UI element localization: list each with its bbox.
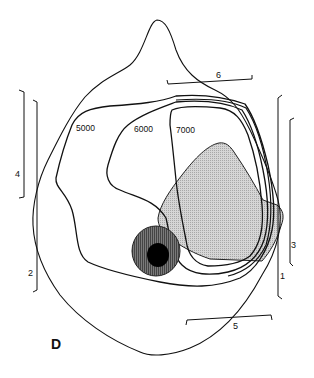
bracket-4 — [19, 90, 24, 198]
contour-label-7000: 7000 — [176, 125, 195, 135]
contour-label-5000: 5000 — [76, 123, 95, 133]
label-2: 2 — [28, 268, 33, 278]
label-1: 1 — [280, 271, 285, 281]
label-4: 4 — [15, 169, 20, 179]
label-3: 3 — [291, 240, 296, 250]
label-6: 6 — [216, 70, 221, 80]
lesion-core — [147, 243, 169, 267]
bracket-2 — [33, 100, 37, 292]
bracket-1 — [278, 95, 282, 299]
bracket-5 — [186, 315, 272, 325]
bracket-6 — [167, 75, 252, 84]
contour-label-6000: 6000 — [134, 124, 153, 134]
panel-label: D — [51, 336, 61, 352]
diagram-canvas: 6 4 2 1 3 5 5000 6000 7000 D — [0, 0, 314, 378]
label-5: 5 — [233, 321, 238, 331]
